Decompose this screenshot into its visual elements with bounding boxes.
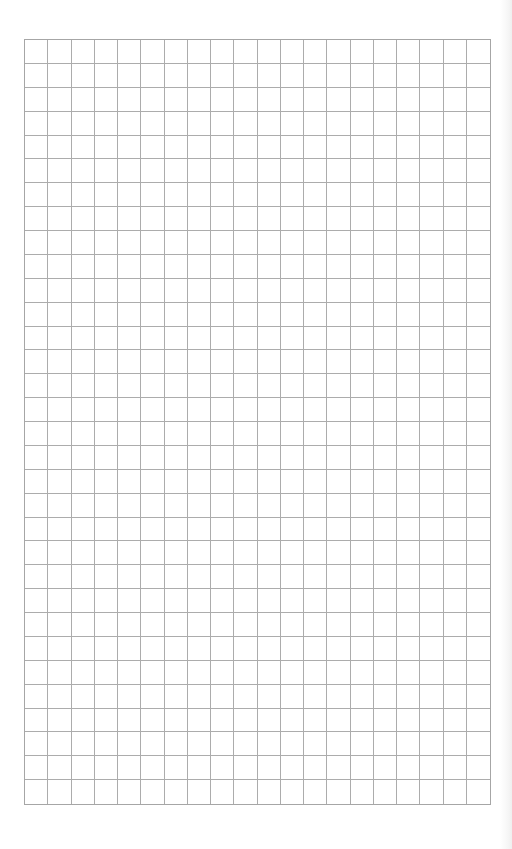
grid-cell [420,494,443,518]
grid-cell [118,446,141,470]
grid-cell [281,88,304,112]
grid-cell [304,685,327,709]
grid-cell [118,541,141,565]
grid-cell [374,732,397,756]
grid-cell [118,159,141,183]
grid-cell [351,255,374,279]
grid-cell [304,231,327,255]
grid-cell [211,183,234,207]
grid-cell [72,709,95,733]
grid-cell [72,327,95,351]
grid-cell [258,136,281,160]
grid-cell [25,374,48,398]
grid-cell [397,207,420,231]
grid-cell [397,565,420,589]
grid-cell [141,327,164,351]
grid-cell [397,685,420,709]
grid-cell [397,327,420,351]
grid-cell [95,136,118,160]
graph-paper-page [0,0,512,849]
grid-cell [304,136,327,160]
grid-cell [258,207,281,231]
grid-cell [304,64,327,88]
grid-cell [25,64,48,88]
grid-cell [467,183,490,207]
grid-cell [211,64,234,88]
grid-cell [95,255,118,279]
grid-cell [327,183,350,207]
grid-cell [397,422,420,446]
grid-cell [211,231,234,255]
grid-cell [351,709,374,733]
grid-cell [281,112,304,136]
grid-cell [351,64,374,88]
grid-cell [25,183,48,207]
grid-cell [374,494,397,518]
grid-cell [211,446,234,470]
grid-cell [188,350,211,374]
grid-cell [211,327,234,351]
grid-cell [234,112,257,136]
grid-cell [165,613,188,637]
grid-cell [211,207,234,231]
grid-cell [420,374,443,398]
grid-cell [420,231,443,255]
grid-cell [304,40,327,64]
grid-cell [25,446,48,470]
grid-cell [420,279,443,303]
grid-cell [234,470,257,494]
grid-cell [281,494,304,518]
grid-cell [141,40,164,64]
grid-cell [467,613,490,637]
grid-cell [25,518,48,542]
grid-cell [72,565,95,589]
grid-cell [374,780,397,804]
grid-cell [72,541,95,565]
grid-cell [444,446,467,470]
grid-cell [397,279,420,303]
grid-cell [118,64,141,88]
grid-cell [72,589,95,613]
grid-cell [165,685,188,709]
grid-cell [467,64,490,88]
grid-cell [25,422,48,446]
grid-cell [72,231,95,255]
grid-cell [48,613,71,637]
grid-cell [48,541,71,565]
grid-cell [374,136,397,160]
grid-cell [327,422,350,446]
grid-cell [234,231,257,255]
grid-cell [141,494,164,518]
grid-cell [258,565,281,589]
grid-cell [72,136,95,160]
grid-cell [397,637,420,661]
grid [24,39,491,805]
grid-cell [467,470,490,494]
grid-cell [188,136,211,160]
grid-cell [281,446,304,470]
grid-cell [444,88,467,112]
grid-cell [234,422,257,446]
grid-cell [444,470,467,494]
grid-cell [444,422,467,446]
grid-cell [304,327,327,351]
grid-cell [281,732,304,756]
grid-cell [141,64,164,88]
grid-cell [444,112,467,136]
grid-cell [118,112,141,136]
grid-cell [95,422,118,446]
grid-cell [467,709,490,733]
grid-cell [211,780,234,804]
grid-cell [467,494,490,518]
grid-cell [211,589,234,613]
grid-cell [420,780,443,804]
grid-cell [188,303,211,327]
grid-cell [281,40,304,64]
grid-cell [72,255,95,279]
grid-cell [48,732,71,756]
grid-cell [165,661,188,685]
grid-cell [444,207,467,231]
grid-cell [48,112,71,136]
grid-cell [25,685,48,709]
grid-cell [211,637,234,661]
